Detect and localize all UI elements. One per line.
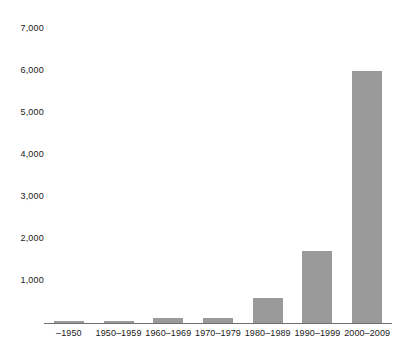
y-axis-tick-label: 1,000	[20, 275, 44, 285]
bar-slot	[94, 24, 144, 324]
x-axis-tick-label: 1990–1999	[293, 328, 343, 338]
bar-slot	[293, 24, 343, 324]
y-axis-tick-label: 4,000	[20, 149, 44, 159]
bar	[352, 71, 382, 324]
x-axis-tick-label: 1960–1969	[143, 328, 193, 338]
y-axis-tick-label: 2,000	[20, 233, 44, 243]
y-axis-tick-label: 6,000	[20, 65, 44, 75]
bar	[302, 251, 332, 324]
bar-slot	[143, 24, 193, 324]
y-axis-tick-label: 7,000	[20, 23, 44, 33]
x-axis-tick-label: 1970–1979	[193, 328, 243, 338]
bar-series	[44, 24, 392, 324]
bar-slot	[342, 24, 392, 324]
x-axis-tick-label: 2000–2009	[342, 328, 392, 338]
x-axis: –1950 1950–1959 1960–1969 1970–1979 1980…	[44, 328, 392, 338]
plot-area	[44, 24, 392, 324]
x-axis-line	[44, 323, 392, 324]
bar	[253, 298, 283, 324]
y-axis-tick-label: 3,000	[20, 191, 44, 201]
y-axis-tick-label: 5,000	[20, 107, 44, 117]
x-axis-tick-label: 1980–1989	[243, 328, 293, 338]
bar-chart: 7,000 6,000 5,000 4,000 3,000 2,000 1,00…	[0, 0, 396, 352]
x-axis-tick-label: –1950	[44, 328, 94, 338]
bar-slot	[193, 24, 243, 324]
x-axis-tick-label: 1950–1959	[94, 328, 144, 338]
bar-slot	[243, 24, 293, 324]
bar-slot	[44, 24, 94, 324]
